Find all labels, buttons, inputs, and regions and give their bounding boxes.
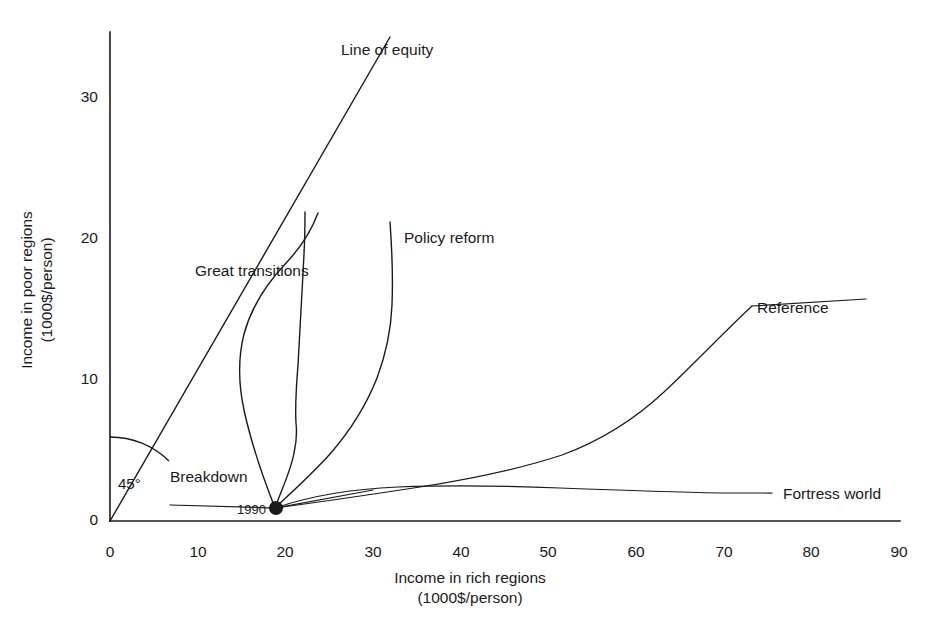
x-tick-label-0: 0: [106, 543, 115, 560]
series-label-fortress-world: Fortress world: [783, 485, 881, 502]
x-axis-title-line1: Income in rich regions: [394, 569, 546, 586]
series-line-of-equity: [110, 37, 390, 521]
series-reference: [275, 306, 752, 508]
series-label-breakdown: Breakdown: [170, 468, 248, 485]
angle-label: 45°: [118, 475, 141, 492]
forty-five-degree-arc: [110, 437, 169, 461]
y-tick-label-30: 30: [81, 88, 99, 105]
series-label-policy-reform: Policy reform: [404, 229, 494, 246]
series-great-transitions-outer: [240, 213, 319, 508]
base-year-marker: [269, 501, 283, 515]
x-tick-label-50: 50: [539, 543, 557, 560]
series-label-line-of-equity: Line of equity: [341, 41, 433, 58]
series-label-great-transitions: Great transitions: [195, 262, 309, 279]
y-axis-title-line1: Income in poor regions: [18, 211, 35, 369]
x-tick-label-60: 60: [627, 543, 645, 560]
series-label-reference: Reference: [757, 299, 829, 316]
x-tick-label-30: 30: [364, 543, 382, 560]
x-tick-label-90: 90: [890, 543, 908, 560]
x-axis-title-line2: (1000$/person): [417, 589, 522, 606]
x-tick-label-80: 80: [802, 543, 820, 560]
chart-figure: 0 10 20 30 40 50 60 70 80 90 0 10 20 30 …: [0, 0, 940, 635]
x-tick-label-10: 10: [189, 543, 207, 560]
income-scenarios-chart: 0 10 20 30 40 50 60 70 80 90 0 10 20 30 …: [0, 0, 940, 635]
x-tick-label-70: 70: [715, 543, 733, 560]
y-tick-label-0: 0: [89, 511, 98, 528]
y-axis-title-line2: (1000$/person): [38, 237, 55, 342]
y-tick-label-10: 10: [81, 370, 99, 387]
series-great-transitions-inner: [275, 212, 305, 508]
x-tick-label-20: 20: [276, 543, 294, 560]
x-tick-label-40: 40: [452, 543, 470, 560]
base-year-label: 1990: [237, 502, 266, 517]
y-tick-label-20: 20: [81, 229, 99, 246]
